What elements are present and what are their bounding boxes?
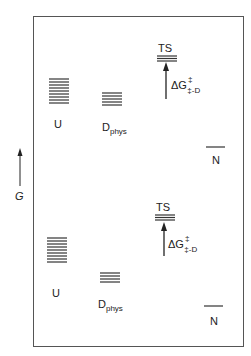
panel-bottom: U Dphys TS ΔG‡‡-D N xyxy=(47,201,223,327)
diagram-frame xyxy=(34,17,244,347)
state-dphys-label: Dphys xyxy=(98,298,123,313)
state-u-label: U xyxy=(54,118,62,130)
state-dphys-levels xyxy=(100,273,120,282)
state-u-label: U xyxy=(52,287,60,299)
state-dphys-levels xyxy=(102,93,122,105)
state-u-levels xyxy=(49,79,69,103)
state-u-levels xyxy=(47,238,67,262)
energy-diagram: G U Dphys TS xyxy=(0,0,251,356)
state-ts-label: TS xyxy=(156,201,170,213)
state-n-label: N xyxy=(210,315,218,327)
state-ts-levels xyxy=(157,56,177,61)
state-dphys-label: Dphys xyxy=(102,121,127,136)
g-axis-label: G xyxy=(15,190,24,202)
state-ts-label: TS xyxy=(158,42,172,54)
barrier-label: ΔG‡‡-D xyxy=(168,234,197,254)
g-axis: G xyxy=(15,148,24,202)
barrier-label: ΔG‡‡-D xyxy=(171,75,200,95)
state-n-label: N xyxy=(212,154,220,166)
panel-top: U Dphys TS ΔG‡‡-D N xyxy=(49,42,225,166)
state-ts-levels xyxy=(155,215,175,220)
